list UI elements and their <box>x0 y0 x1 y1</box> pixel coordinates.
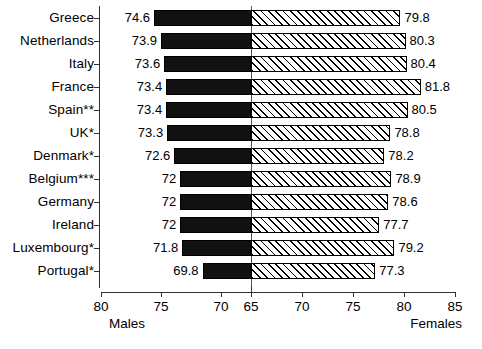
bar-male <box>174 148 251 164</box>
table-row: Germany7278.6 <box>0 191 482 214</box>
bar-female <box>251 194 388 210</box>
value-axis-tick <box>302 292 303 297</box>
category-tick <box>94 202 100 203</box>
bar-male <box>166 79 251 95</box>
table-row: Italy73.680.4 <box>0 53 482 76</box>
table-row: Denmark*72.678.2 <box>0 145 482 168</box>
bar-female <box>251 125 390 141</box>
bar-value-female: 78.6 <box>388 194 458 210</box>
bar-value-female: 78.2 <box>384 148 454 164</box>
bar-male <box>161 33 251 49</box>
table-row: Portugal*69.877.3 <box>0 260 482 283</box>
bar-value-male: 73.3 <box>97 125 167 141</box>
life-expectancy-pyramid-chart: Greece74.679.8Netherlands73.980.3Italy73… <box>0 0 482 349</box>
value-axis-tick <box>101 292 102 297</box>
bar-value-male: 73.4 <box>96 102 166 118</box>
bar-value-male: 74.6 <box>84 10 154 26</box>
bar-value-female: 80.3 <box>406 33 476 49</box>
value-axis-tick-label: 80 <box>81 299 121 314</box>
category-tick <box>94 225 100 226</box>
table-row: Luxembourg*71.879.2 <box>0 237 482 260</box>
bar-value-male: 73.4 <box>96 79 166 95</box>
value-axis-tick-label: 75 <box>141 299 181 314</box>
bar-value-female: 80.5 <box>408 102 478 118</box>
bar-male <box>182 240 251 256</box>
bar-female <box>251 240 394 256</box>
category-tick <box>94 271 100 272</box>
table-row: Greece74.679.8 <box>0 7 482 30</box>
category-label: Denmark* <box>33 148 94 164</box>
table-row: UK*73.378.8 <box>0 122 482 145</box>
value-axis-tick <box>221 292 222 297</box>
category-label: UK* <box>70 125 94 141</box>
bar-value-female: 81.8 <box>421 79 482 95</box>
bar-female <box>251 10 400 26</box>
category-tick <box>94 156 100 157</box>
bar-value-male: 72 <box>110 217 180 233</box>
value-axis-line <box>101 292 455 293</box>
category-label: Netherlands <box>20 33 94 49</box>
bar-value-male: 71.8 <box>112 240 182 256</box>
category-tick <box>94 248 100 249</box>
value-axis-tick <box>404 292 405 297</box>
bar-female <box>251 79 421 95</box>
bar-female <box>251 102 408 118</box>
category-label: Portugal* <box>38 263 94 279</box>
bar-female <box>251 56 407 72</box>
bar-male <box>180 217 251 233</box>
bar-male <box>164 56 251 72</box>
axis-label-males: Males <box>109 316 145 331</box>
table-row: Ireland7277.7 <box>0 214 482 237</box>
bar-female <box>251 171 391 187</box>
value-axis-tick-label: 70 <box>282 299 322 314</box>
bar-male <box>166 102 251 118</box>
bar-female <box>251 148 384 164</box>
table-row: Netherlands73.980.3 <box>0 30 482 53</box>
category-label: France <box>51 79 94 95</box>
category-label: Spain** <box>48 102 94 118</box>
bar-value-female: 77.3 <box>375 263 445 279</box>
category-label: Italy <box>69 56 94 72</box>
value-axis-tick <box>353 292 354 297</box>
value-axis-tick-label: 65 <box>231 299 271 314</box>
category-label: Ireland <box>52 217 94 233</box>
bar-female <box>251 33 406 49</box>
category-label: Germany <box>38 194 94 210</box>
bar-male <box>154 10 251 26</box>
bar-value-male: 72 <box>110 171 180 187</box>
bar-value-male: 72.6 <box>104 148 174 164</box>
bar-value-male: 72 <box>110 194 180 210</box>
bar-female <box>251 263 375 279</box>
bar-value-female: 78.9 <box>391 171 461 187</box>
plot-area: Greece74.679.8Netherlands73.980.3Italy73… <box>0 0 482 293</box>
value-axis-tick-label: 75 <box>333 299 373 314</box>
value-axis-tick <box>161 292 162 297</box>
bar-value-female: 77.7 <box>379 217 449 233</box>
bar-male <box>167 125 251 141</box>
bar-male <box>180 194 251 210</box>
category-label: Luxembourg* <box>13 240 94 256</box>
bar-male <box>180 171 251 187</box>
bar-value-male: 73.9 <box>91 33 161 49</box>
bar-female <box>251 217 379 233</box>
bar-value-male: 73.6 <box>94 56 164 72</box>
value-axis-tick-label: 85 <box>435 299 475 314</box>
bar-value-female: 79.8 <box>400 10 470 26</box>
table-row: Belgium***7278.9 <box>0 168 482 191</box>
category-label: Belgium*** <box>28 171 94 187</box>
bar-male <box>203 263 251 279</box>
value-axis-tick-label: 80 <box>384 299 424 314</box>
bar-value-female: 78.8 <box>390 125 460 141</box>
bar-value-female: 80.4 <box>407 56 477 72</box>
bar-value-female: 79.2 <box>394 240 464 256</box>
value-axis-tick <box>455 292 456 297</box>
axis-label-females: Females <box>410 316 462 331</box>
bar-value-male: 69.8 <box>133 263 203 279</box>
category-tick <box>94 179 100 180</box>
table-row: Spain**73.480.5 <box>0 99 482 122</box>
value-axis-tick <box>251 286 252 297</box>
table-row: France73.481.8 <box>0 76 482 99</box>
